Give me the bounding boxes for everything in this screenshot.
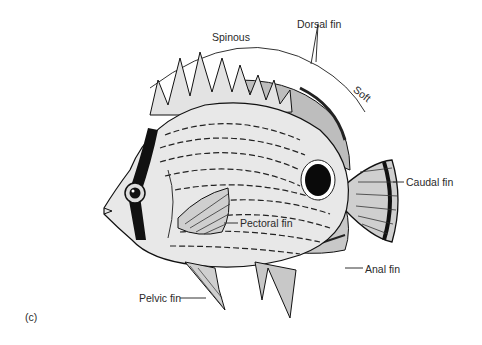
caudal-fin-shape bbox=[345, 160, 398, 242]
dorsal-fin-leader bbox=[311, 24, 318, 64]
fish-illustration bbox=[0, 0, 482, 345]
anal-spines-shape bbox=[255, 262, 296, 318]
label-pectoral-fin: Pectoral fin bbox=[240, 218, 293, 229]
pelvic-fin-shape bbox=[185, 262, 225, 310]
label-anal-fin: Anal fin bbox=[365, 264, 400, 275]
fish-anatomy-diagram: Dorsal fin Spinous Soft Caudal fin Pecto… bbox=[0, 0, 482, 345]
label-dorsal-fin: Dorsal fin bbox=[297, 19, 341, 30]
label-caudal-fin: Caudal fin bbox=[406, 177, 453, 188]
fish-body-shape bbox=[104, 103, 348, 267]
label-spinous: Spinous bbox=[212, 32, 250, 43]
label-pelvic-fin: Pelvic fin bbox=[139, 293, 181, 304]
panel-label: (c) bbox=[25, 312, 37, 323]
